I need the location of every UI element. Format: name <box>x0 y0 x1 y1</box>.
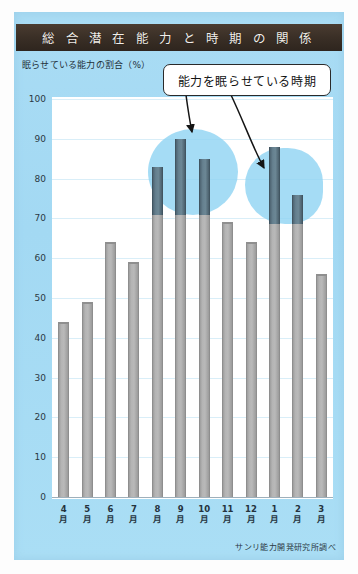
x-tick-1月: 1月 <box>263 504 285 524</box>
page-title: 総 合 潜 在 能 力 と 時 期 の 関 係 <box>42 28 315 47</box>
y-axis-label: 眠らせている能力の割合（%） <box>22 58 150 71</box>
bar-cap <box>105 242 116 244</box>
x-tick-unit: 月 <box>76 514 98 524</box>
y-tick-0: 0 <box>12 492 46 502</box>
chart-title-band: 総 合 潜 在 能 力 と 時 期 の 関 係 <box>16 24 342 51</box>
x-tick-4月: 4月 <box>53 504 75 524</box>
x-tick-unit: 月 <box>100 514 122 524</box>
bar-5月[interactable] <box>82 302 93 497</box>
bar-cap <box>246 242 257 244</box>
bar-cap <box>316 274 327 276</box>
y-tick-100: 100 <box>12 94 46 104</box>
bar-highlight-1月 <box>269 147 280 224</box>
x-tick-unit: 月 <box>170 514 192 524</box>
source-credit: サンリ能力開発研究所調べ <box>235 541 336 552</box>
x-tick-unit: 月 <box>263 514 285 524</box>
x-tick-6月: 6月 <box>100 504 122 524</box>
bar-highlight-9月 <box>175 139 186 215</box>
poster-page: 総 合 潜 在 能 力 と 時 期 の 関 係 眠らせている能力の割合（%） 能… <box>0 0 358 574</box>
x-tick-3月: 3月 <box>310 504 332 524</box>
bar-highlight-8月 <box>152 167 163 215</box>
x-tick-5月: 5月 <box>76 504 98 524</box>
x-tick-unit: 月 <box>240 514 262 524</box>
x-tick-11月: 11月 <box>217 504 239 524</box>
x-tick-number: 4 <box>53 504 75 514</box>
x-tick-number: 8 <box>146 504 168 514</box>
bar-6月[interactable] <box>105 242 116 497</box>
bar-cap <box>128 262 139 264</box>
callout-label: 能力を眠らせている時期 <box>178 72 317 89</box>
bar-2月[interactable] <box>292 195 303 497</box>
bar-cap <box>222 222 233 224</box>
x-tick-number: 12 <box>240 504 262 514</box>
y-tick-30: 30 <box>12 373 46 383</box>
y-tick-40: 40 <box>12 333 46 343</box>
x-tick-7月: 7月 <box>123 504 145 524</box>
x-tick-number: 3 <box>310 504 332 514</box>
x-tick-number: 2 <box>287 504 309 514</box>
x-tick-unit: 月 <box>287 514 309 524</box>
callout-box: 能力を眠らせている時期 <box>163 64 331 96</box>
bar-7月[interactable] <box>128 262 139 497</box>
y-tick-80: 80 <box>12 174 46 184</box>
y-tick-10: 10 <box>12 452 46 462</box>
y-tick-20: 20 <box>12 412 46 422</box>
x-tick-8月: 8月 <box>146 504 168 524</box>
bar-highlight-2月 <box>292 195 303 224</box>
bar-cap <box>58 322 69 324</box>
x-tick-9月: 9月 <box>170 504 192 524</box>
bars-layer <box>52 97 333 497</box>
bar-highlight-10月 <box>199 159 210 215</box>
x-tick-number: 10 <box>193 504 215 514</box>
gridline-0 <box>52 497 333 498</box>
y-tick-50: 50 <box>12 293 46 303</box>
bar-12月[interactable] <box>246 242 257 497</box>
x-tick-unit: 月 <box>310 514 332 524</box>
x-tick-unit: 月 <box>193 514 215 524</box>
bar-4月[interactable] <box>58 322 69 497</box>
x-tick-10月: 10月 <box>193 504 215 524</box>
x-tick-number: 6 <box>100 504 122 514</box>
x-tick-2月: 2月 <box>287 504 309 524</box>
x-tick-number: 5 <box>76 504 98 514</box>
bar-3月[interactable] <box>316 274 327 497</box>
y-tick-70: 70 <box>12 213 46 223</box>
x-tick-unit: 月 <box>123 514 145 524</box>
x-tick-unit: 月 <box>53 514 75 524</box>
x-tick-12月: 12月 <box>240 504 262 524</box>
bar-11月[interactable] <box>222 222 233 497</box>
y-tick-90: 90 <box>12 134 46 144</box>
y-tick-60: 60 <box>12 253 46 263</box>
x-tick-unit: 月 <box>217 514 239 524</box>
bar-cap <box>82 302 93 304</box>
x-tick-number: 1 <box>263 504 285 514</box>
x-tick-number: 7 <box>123 504 145 514</box>
x-tick-number: 9 <box>170 504 192 514</box>
bar-8月[interactable] <box>152 167 163 497</box>
x-tick-unit: 月 <box>146 514 168 524</box>
x-tick-number: 11 <box>217 504 239 514</box>
